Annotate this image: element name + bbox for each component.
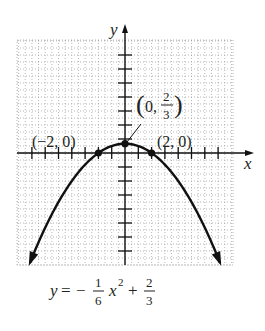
svg-text:3: 3 [146, 293, 153, 308]
point-dot-0 [95, 149, 102, 156]
vertex-label-den: 3 [163, 107, 170, 122]
svg-text:2: 2 [118, 276, 124, 288]
svg-text:2: 2 [146, 275, 153, 290]
point-dot-2 [148, 149, 155, 156]
svg-text:(: ( [136, 90, 145, 119]
curve-arrow-left-icon [29, 251, 38, 266]
point-label-2-0: (2, 0) [157, 133, 192, 151]
vertex-label-x: 0, [145, 98, 157, 115]
point-label-vertex: ( 0, 2 3 ) [136, 89, 183, 122]
y-axis-arrow-icon [122, 24, 128, 33]
svg-text:1: 1 [95, 275, 102, 290]
svg-text:x: x [108, 281, 117, 300]
equation-label: y = − 1 6 x 2 + 2 3 [48, 275, 155, 308]
svg-text:6: 6 [95, 293, 102, 308]
x-axis-label: x [243, 154, 252, 173]
svg-text:+: + [128, 281, 138, 300]
svg-text:): ) [174, 90, 183, 119]
point-label-neg2-0: (−2, 0) [32, 133, 76, 151]
curve-arrow-right-icon [212, 251, 221, 266]
svg-text:−: − [76, 281, 86, 300]
parabola-graph: y x (−2, 0) (2, 0) ( 0, 2 3 ) y = − 1 6 … [0, 0, 265, 331]
y-axis-label: y [108, 20, 118, 39]
svg-text:=: = [61, 281, 71, 300]
vertex-label-num: 2 [163, 89, 170, 104]
svg-text:y: y [48, 281, 58, 300]
